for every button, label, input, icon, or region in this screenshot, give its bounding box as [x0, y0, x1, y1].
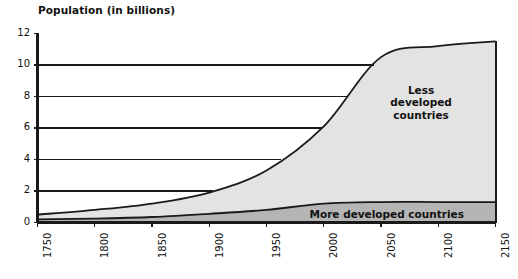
y-tick-label-2: 2 — [8, 184, 30, 195]
x-tick-label-1900: 1900 — [214, 232, 225, 257]
y-tick-label-4: 4 — [8, 153, 30, 164]
more-developed-countries-label: More developed countries — [307, 208, 467, 221]
less-developed-countries-label: Less developed countries — [376, 84, 466, 122]
y-tick-label-8: 8 — [8, 90, 30, 101]
y-tick-label-12: 12 — [8, 27, 30, 38]
x-tick-label-2050: 2050 — [386, 232, 397, 257]
y-tick-label-0: 0 — [8, 216, 30, 227]
less-developed-countries-area — [38, 41, 496, 222]
x-tick-label-1800: 1800 — [99, 232, 110, 257]
x-tick-label-1950: 1950 — [271, 232, 282, 257]
x-tick-label-2000: 2000 — [328, 232, 339, 257]
x-tick-label-1850: 1850 — [157, 232, 168, 257]
population-area-chart: Population (in billions) 024681012 17501… — [0, 0, 518, 279]
x-tick-label-2100: 2100 — [443, 232, 454, 257]
y-tick-label-6: 6 — [8, 121, 30, 132]
y-tick-label-10: 10 — [8, 58, 30, 69]
x-tick-label-1750: 1750 — [42, 232, 53, 257]
x-tick-label-2150: 2150 — [500, 232, 511, 257]
plot-area — [0, 0, 518, 279]
